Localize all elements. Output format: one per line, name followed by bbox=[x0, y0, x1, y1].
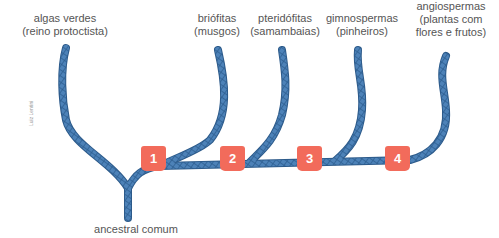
label-line: briófitas bbox=[182, 12, 252, 25]
label-line: flores e frutos) bbox=[408, 26, 494, 39]
label-angiospermas: angiospermas (plantas com flores e fruto… bbox=[408, 0, 494, 39]
label-gimnospermas: gimnospermas (pinheiros) bbox=[322, 12, 402, 38]
label-algas-verdes: algas verdes (reino protoctista) bbox=[10, 12, 120, 38]
label-line: gimnospermas bbox=[322, 12, 402, 25]
label-pteridofitas: pteridófitas (samambaias) bbox=[245, 12, 325, 38]
label-line: (samambaias) bbox=[245, 25, 325, 38]
marker-2: 2 bbox=[220, 146, 245, 171]
marker-1: 1 bbox=[141, 146, 166, 171]
label-ancestral-comum: ancestral comum bbox=[86, 223, 186, 236]
marker-3: 3 bbox=[297, 146, 322, 171]
label-line: algas verdes bbox=[10, 12, 120, 25]
credit-text: Luiz Lentini bbox=[28, 101, 34, 126]
label-line: angiospermas bbox=[408, 0, 494, 13]
label-line: (musgos) bbox=[182, 25, 252, 38]
label-briofitas: briófitas (musgos) bbox=[182, 12, 252, 38]
label-line: pteridófitas bbox=[245, 12, 325, 25]
label-line: (reino protoctista) bbox=[10, 25, 120, 38]
label-line: (plantas com bbox=[408, 13, 494, 26]
label-line: (pinheiros) bbox=[322, 25, 402, 38]
marker-4: 4 bbox=[385, 146, 410, 171]
